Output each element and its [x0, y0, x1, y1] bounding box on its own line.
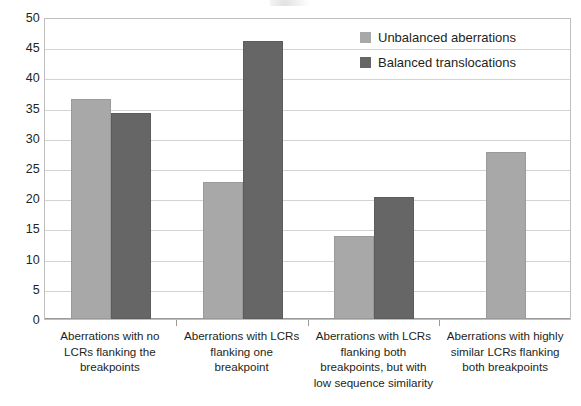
y-tick-label: 15	[4, 222, 40, 236]
bar-unbalanced-cat1[interactable]	[71, 99, 111, 319]
legend-swatch-icon	[360, 57, 371, 68]
gridline	[45, 79, 570, 80]
y-tick-label: 30	[4, 132, 40, 146]
legend-label: Unbalanced aberrations	[378, 30, 516, 45]
x-category-label-line: flanking one	[171, 344, 313, 360]
bar-balanced-cat3[interactable]	[374, 197, 414, 319]
bar-balanced-cat1[interactable]	[111, 113, 151, 319]
category-tick	[439, 320, 440, 326]
x-category-label-line: Aberrations with highly	[434, 328, 576, 344]
y-tick-label: 50	[4, 11, 40, 25]
y-tick-label: 20	[4, 192, 40, 206]
x-category-label-line: breakpoints	[39, 359, 181, 375]
y-tick-label: 45	[4, 41, 40, 55]
x-category-label-line: Aberrations with LCRs	[303, 328, 445, 344]
x-category-label-line: breakpoints, but with	[303, 359, 445, 375]
y-tick-label: 10	[4, 253, 40, 267]
x-category-label-line: breakpoint	[171, 359, 313, 375]
legend-label: Balanced translocations	[378, 55, 516, 70]
bar-unbalanced-cat4[interactable]	[486, 152, 526, 319]
bar-unbalanced-cat2[interactable]	[203, 182, 243, 319]
x-category-label-line: low sequence similarity	[303, 375, 445, 391]
bar-unbalanced-cat3[interactable]	[334, 236, 374, 319]
legend-item-balanced[interactable]: Balanced translocations	[360, 50, 516, 75]
bar-chart-figure: 05101520253035404550 Unbalanced aberrati…	[0, 0, 581, 406]
x-category-label-2: Aberrations with LCRsflanking onebreakpo…	[171, 328, 313, 375]
y-tick-label: 5	[4, 283, 40, 297]
x-category-label-line: flanking both	[303, 344, 445, 360]
x-category-label-line: both breakpoints	[434, 359, 576, 375]
category-tick	[176, 320, 177, 326]
legend-swatch-icon	[360, 32, 371, 43]
x-category-label-3: Aberrations with LCRsflanking bothbreakp…	[303, 328, 445, 390]
y-axis: 05101520253035404550	[0, 18, 40, 320]
gridline	[45, 110, 570, 111]
y-tick-label: 40	[4, 71, 40, 85]
bar-balanced-cat2[interactable]	[243, 41, 283, 319]
legend-item-unbalanced[interactable]: Unbalanced aberrations	[360, 25, 516, 50]
chart-legend: Unbalanced aberrationsBalanced transloca…	[360, 25, 516, 75]
scan-artifact	[270, 0, 320, 6]
y-tick-label: 35	[4, 102, 40, 116]
x-category-label-line: Aberrations with no	[39, 328, 181, 344]
x-category-label-1: Aberrations with noLCRs flanking thebrea…	[39, 328, 181, 375]
x-category-label-line: Aberrations with LCRs	[171, 328, 313, 344]
x-category-label-line: similar LCRs flanking	[434, 344, 576, 360]
category-tick	[308, 320, 309, 326]
x-category-label-line: LCRs flanking the	[39, 344, 181, 360]
y-tick-label: 25	[4, 162, 40, 176]
x-category-label-4: Aberrations with highlysimilar LCRs flan…	[434, 328, 576, 375]
y-tick-label: 0	[4, 313, 40, 327]
